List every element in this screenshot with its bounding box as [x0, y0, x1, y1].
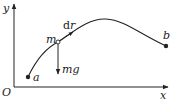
point-m	[56, 40, 60, 44]
point-a-label: a	[33, 71, 40, 84]
trajectory-diagram: y x O dr mg a m b	[0, 0, 173, 104]
y-axis-label: y	[2, 2, 10, 15]
gravity-label: mg	[62, 63, 79, 76]
displacement-vector	[58, 32, 73, 42]
point-m-label: m	[46, 33, 56, 46]
point-b-label: b	[163, 29, 170, 42]
diagram-svg: y x O dr mg a m b	[0, 0, 173, 104]
point-b	[164, 44, 168, 48]
x-axis-label: x	[160, 89, 167, 102]
trajectory-curve	[28, 19, 166, 77]
displacement-label: dr	[63, 19, 76, 32]
origin-label: O	[2, 86, 11, 99]
point-a	[26, 75, 30, 79]
